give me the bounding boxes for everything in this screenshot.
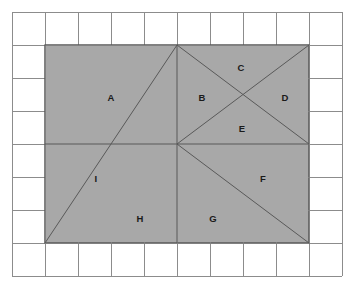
region-label-h: H [136, 213, 143, 224]
region-label-b: B [198, 92, 205, 103]
geometry-figure: ABCDEFGHI [0, 0, 348, 296]
region-label-i: I [95, 173, 98, 184]
region-label-c: C [237, 62, 244, 73]
region-label-f: F [260, 173, 266, 184]
region-label-d: D [281, 92, 288, 103]
region-label-a: A [107, 92, 114, 103]
region-label-e: E [239, 123, 246, 134]
region-label-g: G [209, 213, 217, 224]
figure-canvas: ABCDEFGHI [0, 0, 348, 296]
